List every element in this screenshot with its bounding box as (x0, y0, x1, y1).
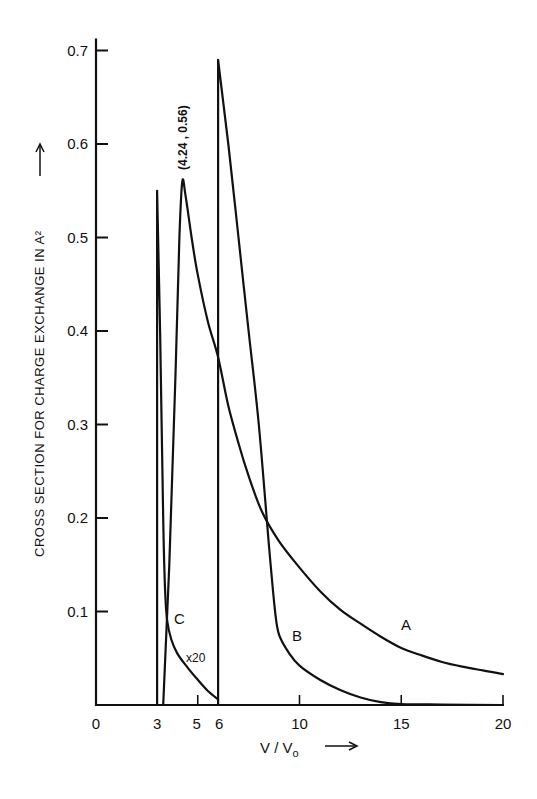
x-tick-label: 10 (291, 715, 308, 732)
x-axis-title: V / Vo (260, 739, 357, 759)
curve-a (163, 179, 503, 705)
curve-labels: A B C x20 (4.24 , 0.56) (174, 105, 411, 665)
y-tick-label: 0.1 (67, 603, 88, 620)
x-tick-label: 0 (92, 715, 100, 732)
curve-b-label: B (292, 627, 302, 644)
y-tick-label: 0.4 (67, 322, 88, 339)
x-tick-label: 6 (215, 715, 223, 732)
x-axis-label: V / Vo (260, 739, 299, 759)
peak-annotation: (4.24 , 0.56) (176, 105, 190, 170)
y-axis-title: CROSS SECTION FOR CHARGE EXCHANGE IN A² (32, 144, 47, 557)
y-tick-label: 0.3 (67, 416, 88, 433)
y-tick-label: 0.2 (67, 509, 88, 526)
charge-exchange-chart: 0.10.20.30.40.50.60.70356101520 A B C x2… (0, 0, 537, 799)
y-tick-label: 0.5 (67, 229, 88, 246)
y-tick-label: 0.6 (67, 135, 88, 152)
curve-a-label: A (401, 616, 411, 633)
x-tick-label: 5 (193, 715, 201, 732)
curve-b (218, 60, 503, 705)
y-axis-label: CROSS SECTION FOR CHARGE EXCHANGE IN A² (32, 230, 47, 557)
curve-c-label: C (174, 610, 185, 627)
axes: 0.10.20.30.40.50.60.70356101520 (67, 39, 511, 733)
y-tick-label: 0.7 (67, 42, 88, 59)
x-tick-label: 20 (495, 715, 512, 732)
x-tick-label: 15 (393, 715, 410, 732)
scale-note-label: x20 (186, 651, 206, 665)
x-tick-label: 3 (153, 715, 161, 732)
curves (157, 60, 503, 705)
